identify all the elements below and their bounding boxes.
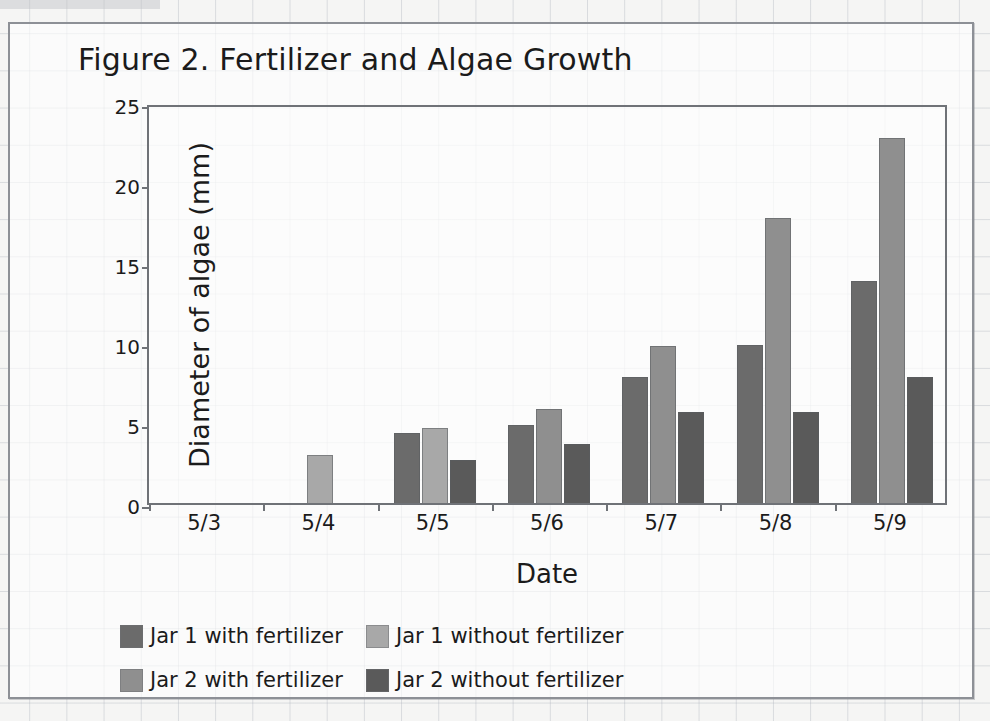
y-tick-label: 15 xyxy=(115,255,140,279)
legend-swatch-icon xyxy=(120,669,143,692)
y-tick-mark xyxy=(142,107,149,109)
x-tick-label: 5/5 xyxy=(416,511,450,535)
legend-label: Jar 2 with fertilizer xyxy=(150,668,343,692)
legend-swatch-icon xyxy=(120,625,143,648)
bar xyxy=(450,460,476,503)
x-tick-mark xyxy=(720,503,722,511)
x-tick-mark xyxy=(606,503,608,511)
y-tick-label: 10 xyxy=(115,335,140,359)
legend-item: Jar 1 with fertilizer xyxy=(120,624,366,648)
legend-label: Jar 2 without fertilizer xyxy=(396,668,623,692)
legend-item: Jar 2 without fertilizer xyxy=(366,668,640,692)
y-tick-label: 20 xyxy=(115,175,140,199)
bar xyxy=(879,138,905,503)
y-tick-label: 0 xyxy=(127,495,140,519)
bar xyxy=(422,428,448,503)
bar xyxy=(650,346,676,503)
x-tick-mark xyxy=(492,503,494,511)
y-tick-mark xyxy=(142,267,149,269)
bar xyxy=(765,218,791,503)
bar xyxy=(508,425,534,503)
bar xyxy=(536,409,562,503)
x-tick-mark xyxy=(263,503,265,511)
bar xyxy=(564,444,590,503)
legend-label: Jar 1 without fertilizer xyxy=(396,624,623,648)
x-tick-label: 5/7 xyxy=(644,511,678,535)
x-tick-label: 5/3 xyxy=(187,511,221,535)
plot-area: Diameter of algae (mm) 0510152025 xyxy=(147,105,947,505)
chart-legend: Jar 1 with fertilizerJar 1 without ferti… xyxy=(120,614,640,702)
y-tick-label: 25 xyxy=(115,95,140,119)
bar xyxy=(737,345,763,503)
legend-item: Jar 2 with fertilizer xyxy=(120,668,366,692)
bar xyxy=(622,377,648,503)
figure-card: Figure 2. Fertilizer and Algae Growth Di… xyxy=(8,22,974,699)
chart-title: Figure 2. Fertilizer and Algae Growth xyxy=(78,42,633,77)
y-tick-mark xyxy=(142,507,149,509)
x-tick-label: 5/4 xyxy=(302,511,336,535)
x-tick-label: 5/6 xyxy=(530,511,564,535)
bar xyxy=(307,455,333,503)
bar xyxy=(851,281,877,503)
x-axis-title: Date xyxy=(147,559,947,589)
y-axis-title: Diameter of algae (mm) xyxy=(184,142,215,468)
y-tick-label: 5 xyxy=(127,415,140,439)
scan-artifact-strip xyxy=(0,0,160,9)
x-tick-mark xyxy=(378,503,380,511)
bar xyxy=(907,377,933,503)
bar xyxy=(394,433,420,503)
y-tick-mark xyxy=(142,187,149,189)
bar xyxy=(793,412,819,503)
x-tick-mark xyxy=(835,503,837,511)
legend-label: Jar 1 with fertilizer xyxy=(150,624,343,648)
x-tick-label: 5/9 xyxy=(873,511,907,535)
x-tick-mark xyxy=(149,503,151,511)
legend-item: Jar 1 without fertilizer xyxy=(366,624,640,648)
legend-swatch-icon xyxy=(366,625,389,648)
y-tick-mark xyxy=(142,427,149,429)
legend-swatch-icon xyxy=(366,669,389,692)
y-tick-mark xyxy=(142,347,149,349)
x-tick-label: 5/8 xyxy=(759,511,793,535)
bar xyxy=(678,412,704,503)
